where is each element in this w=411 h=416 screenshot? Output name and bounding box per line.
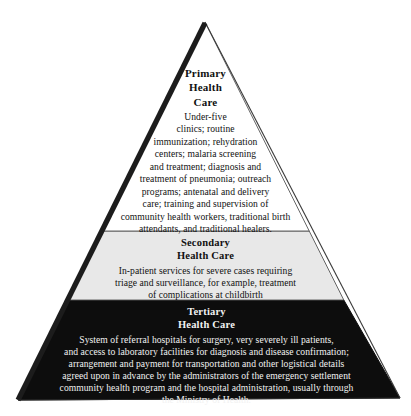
primary-body-line-4: centers; malaria screening (60, 148, 351, 160)
secondary-tier-body: In-patient services for severe cases req… (62, 265, 349, 301)
health-care-pyramid-figure: Primary Health Care Under-five clinics; … (0, 0, 411, 416)
tertiary-body-line-3: arrangement and payment for transportati… (24, 358, 389, 370)
primary-body-line-5: and treatment; diagnosis and (60, 161, 351, 173)
primary-body-line-1: Under-five (60, 111, 351, 123)
secondary-heading-line-2: Health Care (62, 249, 349, 262)
secondary-tier-text-block: Secondary Health Care In-patient service… (62, 236, 349, 301)
secondary-heading-line-1: Secondary (62, 236, 349, 249)
tertiary-body-line-6: the Ministry of Health. (24, 394, 389, 406)
tertiary-tier-body: System of referral hospitals for surgery… (24, 334, 389, 406)
primary-heading-line-2: Health (60, 80, 351, 94)
tertiary-heading-line-1: Tertiary (24, 305, 389, 318)
primary-tier-body: Under-five clinics; routine immunization… (60, 111, 351, 236)
secondary-body-line-1: In-patient services for severe cases req… (62, 265, 349, 277)
primary-body-line-6: treatment of pneumonia; outreach (60, 173, 351, 185)
primary-tier-heading: Primary Health Care (60, 66, 351, 109)
secondary-body-line-3: of complications at childbirth (62, 289, 349, 301)
tertiary-body-line-5: community health program and the hospita… (24, 382, 389, 394)
tertiary-tier-heading: Tertiary Health Care (24, 305, 389, 332)
primary-heading-line-3: Care (60, 95, 351, 109)
primary-heading-line-1: Primary (60, 66, 351, 80)
primary-tier-text-block: Primary Health Care Under-five clinics; … (60, 66, 351, 236)
primary-body-line-8: care; training and supervision of (60, 198, 351, 210)
tertiary-body-line-2: and access to laboratory facilities for … (24, 346, 389, 358)
tertiary-body-line-1: System of referral hospitals for surgery… (24, 334, 389, 346)
tertiary-heading-line-2: Health Care (24, 318, 389, 331)
tertiary-tier-text-block: Tertiary Health Care System of referral … (24, 305, 389, 406)
secondary-tier-heading: Secondary Health Care (62, 236, 349, 263)
tertiary-body-line-4: agreed upon in advance by the administra… (24, 370, 389, 382)
primary-body-line-3: immunization; rehydration (60, 136, 351, 148)
primary-body-line-9: community health workers, traditional bi… (60, 211, 351, 223)
secondary-body-line-2: triage and surveillance, for example, tr… (62, 277, 349, 289)
primary-body-line-2: clinics; routine (60, 123, 351, 135)
primary-body-line-7: programs; antenatal and delivery (60, 186, 351, 198)
primary-body-line-10: attendants, and traditional healers. (60, 223, 351, 235)
